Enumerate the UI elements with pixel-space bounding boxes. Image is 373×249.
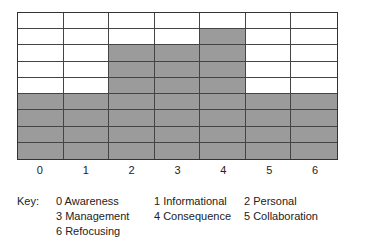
grid-cell [155,45,201,61]
grid-cell [109,78,155,94]
grid-cell [109,62,155,78]
grid-cell [18,62,64,78]
grid-cell [246,110,292,126]
grid-cell [18,13,64,29]
grid-cell [64,45,110,61]
grid-cell [109,45,155,61]
key-item-management: 3 Management [56,209,129,224]
grid-cell [246,78,292,94]
grid-cell [200,94,246,110]
grid-cell [64,110,110,126]
grid-cell [18,94,64,110]
key-title: Key: [17,194,39,209]
grid-cell [200,13,246,29]
grid-cell [155,78,201,94]
grid-cell [291,62,337,78]
key-item-refocusing: 6 Refocusing [56,224,120,239]
grid-cell [155,143,201,159]
grid-cell [64,62,110,78]
grid-cell [18,143,64,159]
grid-cell [18,127,64,143]
grid-cell [291,29,337,45]
grid-cell [291,110,337,126]
grid-cell [246,94,292,110]
x-tick-label: 6 [292,164,338,180]
grid-cell [109,29,155,45]
grid-cell [64,13,110,29]
grid-cell [155,127,201,143]
grid-cell [200,62,246,78]
grid-cell [291,127,337,143]
x-tick-label: 3 [155,164,201,180]
grid-cell [18,110,64,126]
stage-grid-chart [17,12,338,160]
grid-cell [18,29,64,45]
grid-cell [155,62,201,78]
x-tick-label: 1 [63,164,109,180]
grid-cell [64,78,110,94]
grid-cell [200,45,246,61]
grid-cell [64,29,110,45]
grid-cell [200,127,246,143]
grid-cell [200,78,246,94]
key-item-collaboration: 5 Collaboration [244,209,318,224]
grid-cell [155,94,201,110]
grid-cell [246,45,292,61]
grid-cell [291,78,337,94]
grid-cell [64,127,110,143]
x-tick-label: 0 [17,164,63,180]
x-axis-labels: 0123456 [17,164,338,180]
grid-cell [155,13,201,29]
grid-cell [291,13,337,29]
grid-cell [109,127,155,143]
grid-cell [291,94,337,110]
grid-cell [18,45,64,61]
grid-cell [246,13,292,29]
grid-cell [109,110,155,126]
x-tick-label: 2 [109,164,155,180]
key-item-awareness: 0 Awareness [56,194,119,209]
grid-cell [200,29,246,45]
grid-cell [200,143,246,159]
grid-cell [155,110,201,126]
grid-cell [64,143,110,159]
grid-cell [246,62,292,78]
grid-cell [64,94,110,110]
grid-cell [246,143,292,159]
grid-cell [200,110,246,126]
key-item-personal: 2 Personal [244,194,297,209]
x-tick-label: 4 [200,164,246,180]
key-item-informational: 1 Informational [154,194,227,209]
grid-cell [291,45,337,61]
grid-cell [109,13,155,29]
grid-cell [109,143,155,159]
grid-cell [109,94,155,110]
grid-cell [246,29,292,45]
grid-cell [155,29,201,45]
grid-cell [18,78,64,94]
grid-cell [291,143,337,159]
key-item-consequence: 4 Consequence [154,209,231,224]
grid-cell [246,127,292,143]
x-tick-label: 5 [246,164,292,180]
